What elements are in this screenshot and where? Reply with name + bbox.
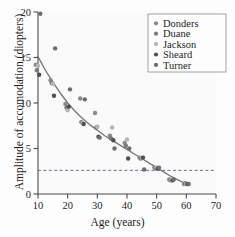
data-point	[110, 125, 114, 129]
legend-marker-duane	[154, 32, 158, 36]
legend-label-donders: Donders	[163, 18, 199, 29]
data-point	[81, 122, 85, 126]
data-point	[38, 12, 42, 16]
legend-marker-donders	[154, 21, 158, 25]
legend-marker-sheard	[154, 52, 158, 56]
data-point	[67, 104, 71, 108]
data-point	[51, 82, 55, 86]
data-point	[127, 146, 131, 150]
data-point	[142, 167, 146, 171]
x-axis-title: Age (years)	[0, 216, 235, 228]
y-axis-title: Amplitude of accomodation (diopters)	[13, 7, 25, 197]
data-point	[78, 96, 82, 100]
data-point	[83, 97, 87, 101]
data-point	[141, 155, 145, 159]
data-point	[36, 63, 40, 67]
legend-label-duane: Duane	[163, 28, 191, 39]
data-point	[95, 124, 99, 128]
scatter-plot: 1020304050607005101520DondersDuaneJackso…	[0, 0, 235, 237]
y-tick-label: 5	[26, 143, 31, 154]
x-tick-label: 30	[92, 200, 103, 211]
data-point	[186, 182, 190, 186]
data-point	[111, 138, 115, 142]
x-tick-label: 20	[62, 200, 73, 211]
chart-figure: 1020304050607005101520DondersDuaneJackso…	[0, 0, 235, 237]
x-tick-label: 60	[181, 200, 192, 211]
data-point	[35, 68, 39, 72]
data-point	[172, 177, 176, 181]
x-tick-label: 70	[211, 200, 222, 211]
data-point	[112, 146, 116, 150]
data-point	[97, 135, 101, 139]
data-point	[53, 46, 57, 50]
data-point	[52, 94, 56, 98]
data-point	[125, 137, 129, 141]
data-point	[157, 165, 161, 169]
y-tick-label: 0	[26, 189, 31, 200]
data-point	[93, 111, 97, 115]
legend-label-jackson: Jackson	[163, 39, 197, 50]
legend-label-turner: Turner	[163, 60, 192, 71]
data-point	[126, 156, 130, 160]
data-point	[124, 144, 128, 148]
x-tick-label: 10	[33, 200, 44, 211]
legend-marker-turner	[154, 63, 158, 67]
legend-marker-jackson	[154, 42, 158, 46]
data-point	[68, 87, 72, 91]
data-point	[37, 73, 41, 77]
x-tick-label: 40	[122, 200, 133, 211]
x-tick-label: 50	[151, 200, 162, 211]
legend-label-sheard: Sheard	[163, 49, 193, 60]
